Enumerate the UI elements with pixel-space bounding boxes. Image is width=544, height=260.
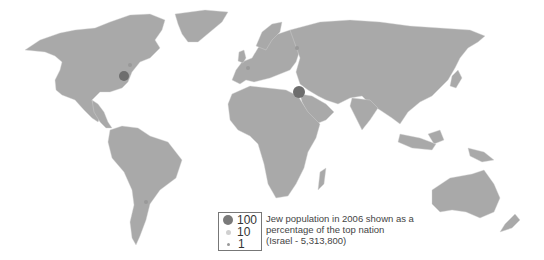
madagascar xyxy=(318,168,326,190)
legend-box: 100 10 1 xyxy=(218,212,262,251)
marker-israel xyxy=(293,86,305,98)
new-zealand xyxy=(500,214,520,232)
legend-label: 1 xyxy=(238,238,245,250)
legend-line-2: percentage of the top nation xyxy=(266,224,466,235)
marker-argentina xyxy=(144,200,148,204)
legend-item-10: 10 xyxy=(223,226,250,238)
central-america xyxy=(92,100,112,128)
australia xyxy=(432,170,500,218)
marker-usa xyxy=(119,71,129,81)
legend-line-3: (Israel - 5,313,800) xyxy=(266,235,466,246)
greenland xyxy=(175,10,228,42)
south-america xyxy=(108,126,182,245)
marker-canada xyxy=(128,63,132,67)
legend-description: Jew population in 2006 shown as a percen… xyxy=(266,213,466,246)
legend-line-1: Jew population in 2006 shown as a xyxy=(266,213,466,224)
legend-dot-medium-icon xyxy=(226,230,231,235)
marker-france xyxy=(246,66,250,70)
southeast-asia xyxy=(398,130,494,162)
legend-dot-large-icon xyxy=(223,215,233,225)
legend-item-1: 1 xyxy=(223,238,245,250)
legend-dot-small-icon xyxy=(227,243,230,246)
marker-russia xyxy=(295,46,299,50)
